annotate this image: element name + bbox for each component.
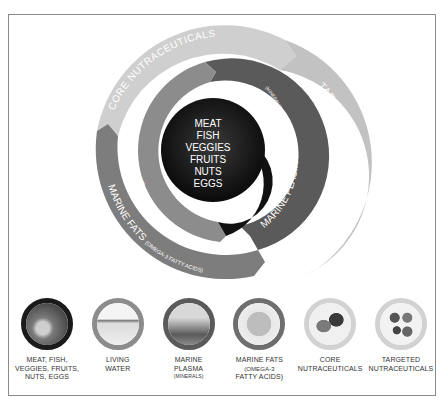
legend-item-food: MEAT, FISH,VEGGIES, FRUITS,NUTS, EGGS — [14, 298, 80, 394]
center-line-fruits: FRUITS — [190, 154, 226, 165]
legend-item-marine-fats: MARINE FATS(OMEGA-3FATTY ACIDS) — [226, 298, 292, 394]
legend-item-living-water: LIVINGWATER — [85, 298, 151, 394]
legend-label-core-nutraceuticals: CORENUTRACEUTICALS — [298, 356, 363, 373]
legend-item-core-nutraceuticals: CORENUTRACEUTICALS — [297, 298, 363, 394]
legend-row: MEAT, FISH,VEGGIES, FRUITS,NUTS, EGGS LI… — [14, 298, 434, 394]
center-line-fish: FISH — [197, 130, 220, 141]
supplement-bottles-photo-icon — [375, 298, 427, 350]
center-line-eggs: EGGS — [194, 178, 223, 189]
legend-label-marine-fats: MARINE FATS(OMEGA-3FATTY ACIDS) — [236, 356, 284, 382]
food-photo-icon — [21, 298, 73, 350]
center-line-meat: MEAT — [194, 118, 221, 129]
legend-label-targeted-nutraceuticals: TARGETEDNUTRACEUTICALS — [369, 356, 434, 373]
center-line-veggies: VEGGIES — [185, 142, 230, 153]
fish-fillet-photo-icon — [233, 298, 285, 350]
legend-label-food: MEAT, FISH,VEGGIES, FRUITS,NUTS, EGGS — [15, 356, 79, 382]
legend-label-living-water: LIVINGWATER — [105, 356, 130, 373]
capsules-photo-icon — [304, 298, 356, 350]
legend-item-marine-plasma: MARINEPLASMA(MINERALS) — [156, 298, 222, 394]
legend-item-targeted-nutraceuticals: TARGETEDNUTRACEUTICALS — [368, 298, 434, 394]
center-line-nuts: NUTS — [194, 166, 222, 177]
legend-label-marine-plasma: MARINEPLASMA(MINERALS) — [174, 356, 204, 379]
water-photo-icon — [92, 298, 144, 350]
ocean-photo-icon — [163, 298, 215, 350]
